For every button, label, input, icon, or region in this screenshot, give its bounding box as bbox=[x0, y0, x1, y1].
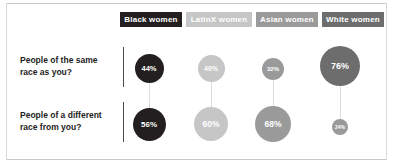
bubble-black-women-same-race[interactable]: 44% bbox=[135, 54, 164, 83]
figure-left-edge bbox=[6, 3, 7, 160]
row-divider-top bbox=[123, 47, 124, 87]
figure-top-rule bbox=[6, 3, 387, 4]
bubble-value-label: 44% bbox=[141, 64, 156, 73]
legend-chip-asian-women[interactable]: Asian women bbox=[256, 12, 318, 27]
row-label-same-race: People of the samerace as you? bbox=[20, 55, 118, 78]
bubble-value-label: 40% bbox=[204, 65, 218, 72]
row-label-different-race: People of a differentrace from you? bbox=[20, 110, 118, 133]
bubble-white-women-different-race[interactable]: 24% bbox=[332, 119, 348, 135]
bubble-value-label: 68% bbox=[264, 119, 281, 129]
bubble-value-label: 60% bbox=[202, 119, 219, 129]
bubble-asian-women-same-race[interactable]: 32% bbox=[262, 58, 284, 80]
bubble-connector bbox=[149, 82, 150, 108]
bubble-connector bbox=[211, 81, 212, 107]
bubble-connector bbox=[273, 80, 274, 106]
bubble-white-women-same-race[interactable]: 76% bbox=[320, 46, 360, 86]
bubble-black-women-different-race[interactable]: 56% bbox=[133, 108, 166, 141]
bubble-value-label: 56% bbox=[141, 120, 157, 129]
bubble-chart-figure: Black women LatinX women Asian women Whi… bbox=[0, 0, 393, 163]
legend-chip-latinx-women[interactable]: LatinX women bbox=[186, 12, 252, 27]
bubble-latinx-women-same-race[interactable]: 40% bbox=[198, 55, 225, 82]
legend-chips: Black women LatinX women Asian women Whi… bbox=[120, 12, 384, 27]
bubble-value-label: 32% bbox=[267, 66, 279, 72]
figure-bottom-rule bbox=[6, 159, 387, 160]
legend-chip-white-women[interactable]: White women bbox=[322, 12, 384, 27]
figure-right-edge bbox=[386, 3, 387, 160]
legend-chip-black-women[interactable]: Black women bbox=[120, 12, 182, 27]
bubble-value-label: 76% bbox=[331, 61, 349, 71]
bubble-value-label: 24% bbox=[335, 124, 345, 130]
bubble-latinx-women-different-race[interactable]: 60% bbox=[194, 107, 228, 141]
bubble-asian-women-different-race[interactable]: 68% bbox=[255, 106, 291, 142]
bubble-connector bbox=[340, 86, 341, 119]
row-divider-bottom bbox=[123, 102, 124, 142]
